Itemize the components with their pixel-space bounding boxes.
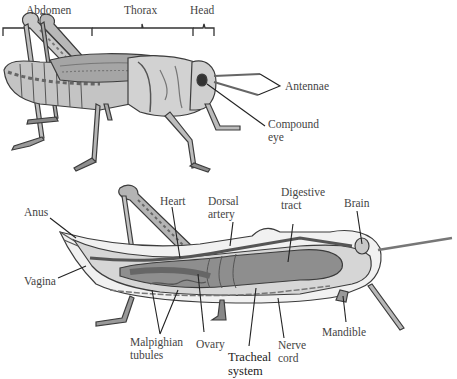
label-brain: Brain <box>344 197 370 210</box>
label-malpighian-line2: tubules <box>130 349 183 362</box>
label-compound-eye: Compound eye <box>268 118 319 144</box>
label-mandible: Mandible <box>322 326 366 339</box>
label-tracheal-line2: system <box>228 364 271 378</box>
label-nerve-cord-line1: Nerve <box>278 339 306 352</box>
label-tracheal-line1: Tracheal <box>228 350 271 364</box>
grasshopper-internal <box>60 185 452 330</box>
label-ovary: Ovary <box>196 338 225 351</box>
label-digestive-tract-line2: tract <box>281 199 325 212</box>
label-anus: Anus <box>24 206 48 219</box>
label-malpighian-line1: Malpighian <box>130 336 183 349</box>
anatomy-illustration <box>0 0 457 379</box>
label-dorsal-artery-line2: artery <box>208 208 239 221</box>
label-nerve-cord-line2: cord <box>278 352 306 365</box>
label-digestive-tract: Digestive tract <box>281 186 325 212</box>
label-heart: Heart <box>160 195 186 208</box>
grasshopper-external <box>4 13 260 172</box>
label-abdomen: Abdomen <box>26 4 71 17</box>
label-dorsal-artery-line1: Dorsal <box>208 195 239 208</box>
label-thorax: Thorax <box>124 4 157 17</box>
label-malpighian-tubules: Malpighian tubules <box>130 336 183 362</box>
label-antennae: Antennae <box>285 80 329 93</box>
label-head: Head <box>190 4 214 17</box>
label-nerve-cord: Nerve cord <box>278 339 306 365</box>
label-dorsal-artery: Dorsal artery <box>208 195 239 221</box>
label-compound-eye-line2: eye <box>268 131 319 144</box>
label-tracheal-system: Tracheal system <box>228 350 271 378</box>
label-vagina: Vagina <box>24 275 56 288</box>
label-compound-eye-line1: Compound <box>268 118 319 131</box>
label-digestive-tract-line1: Digestive <box>281 186 325 199</box>
